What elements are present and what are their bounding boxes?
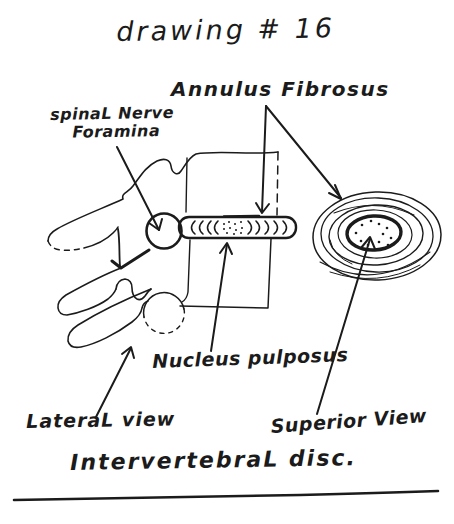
annulus-arcs-left <box>192 221 219 234</box>
annulus-arrow-left <box>256 106 269 213</box>
disc-band <box>179 217 296 238</box>
disc-nucleus-dots <box>223 221 243 235</box>
foramina-arrow <box>117 147 162 230</box>
nucleus-arrow <box>211 243 232 351</box>
nerve-foramen-circle <box>147 214 182 249</box>
lower-foramen-dashed-arc <box>144 309 184 333</box>
disc-band-bold-top <box>224 216 259 217</box>
annulus-arcs-right <box>248 221 287 234</box>
upper-body-right-edge-dashed <box>277 152 278 215</box>
lower-foramen-solid-arc <box>144 293 184 317</box>
nucleus-dots <box>355 220 393 247</box>
bottom-rule <box>14 491 438 500</box>
upper-process-dashed-tip <box>48 241 84 250</box>
lower-process-1 <box>58 268 121 315</box>
lower-body-left-edge <box>182 240 190 302</box>
spinal-nerve-foramina-label: spinaL Nerve Foramina <box>50 104 174 143</box>
upper-body-left-edge <box>186 158 187 212</box>
lateral-view-drawing <box>48 152 296 347</box>
upper-vertebra-outline <box>48 152 278 241</box>
drawing-title: drawing # 16 <box>116 12 335 47</box>
lateral-view-arrow <box>96 347 134 417</box>
superior-view-drawing <box>312 190 443 282</box>
spinal-nerve-label-line2: Foramina <box>72 122 174 142</box>
annulus-fibrosus-label: Annulus Fibrosus <box>171 78 390 101</box>
inferior-articular-line <box>118 229 120 266</box>
sketch-page: drawing # 16 Annulus Fibrosus spinaL Ner… <box>0 0 454 524</box>
figure-caption: IntervertebraL disc. <box>70 445 357 475</box>
articular-junction-bold <box>112 250 149 268</box>
upper-process-underside <box>84 227 118 248</box>
lateral-view-label: LateraL view <box>26 408 176 432</box>
annulus-ring-2 <box>320 196 435 274</box>
